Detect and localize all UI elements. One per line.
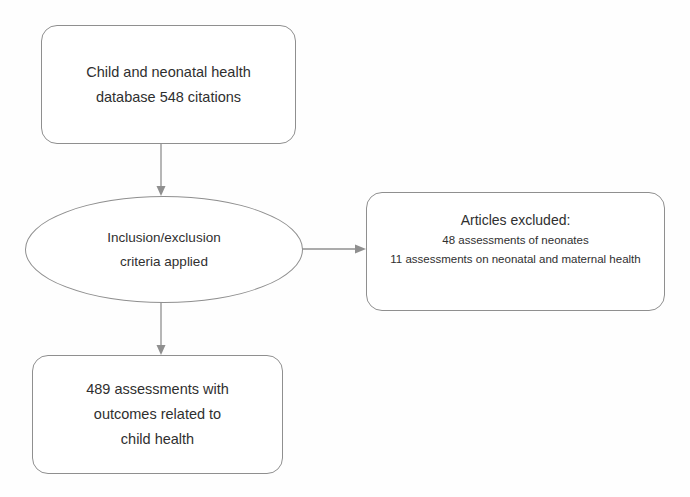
flowchart-node-source-database[interactable]: Child and neonatal health database 548 c… [41,25,296,144]
flowchart-node-included-assessments[interactable]: 489 assessments with outcomes related to… [32,355,283,474]
flowchart-node-articles-excluded[interactable]: Articles excluded: 48 assessments of neo… [366,192,665,311]
node-included-line-2: outcomes related to [94,402,221,427]
node-source-line-1: Child and neonatal health [86,60,250,85]
node-criteria-line-1: Inclusion/exclusion [107,226,220,250]
arrowhead-down-icon [157,186,166,196]
flowchart-node-inclusion-exclusion-criteria[interactable]: Inclusion/exclusion criteria applied [25,196,303,303]
node-excluded-line-2: 11 assessments on neonatal and maternal … [382,250,650,269]
node-included-line-3: child health [121,427,194,452]
arrowhead-down-icon [157,345,166,355]
node-excluded-line-1: 48 assessments of neonates [442,231,588,250]
connector-criteria-to-included [160,302,162,355]
flowchart-canvas: Child and neonatal health database 548 c… [0,0,690,497]
node-included-line-1: 489 assessments with [86,377,229,402]
node-criteria-line-2: criteria applied [120,250,208,274]
connector-criteria-to-excluded [302,248,366,250]
node-excluded-heading: Articles excluded: [461,209,571,231]
connector-source-to-criteria [160,144,162,196]
arrowhead-right-icon [355,245,366,254]
node-source-line-2: database 548 citations [96,85,241,110]
